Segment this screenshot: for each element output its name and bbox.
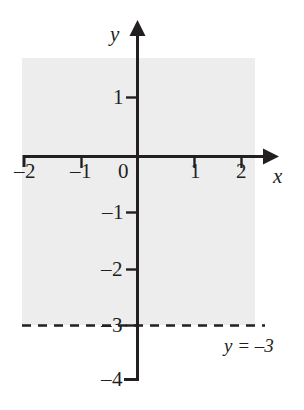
y-tick-label-1: 1 [113, 87, 124, 108]
x-tick-label--2: –2 [14, 161, 36, 182]
line-equation-label: y = –3 [224, 336, 274, 355]
y-tick-label--2: –2 [101, 259, 123, 280]
graph-figure: y x 0 –2 –1 1 2 1 –1 –2 –3 –4 y = –3 [0, 0, 304, 410]
y-tick-label--4: –4 [101, 369, 123, 390]
x-axis-arrow-icon [263, 149, 279, 165]
x-tick-label-1: 1 [190, 161, 201, 182]
y-tick-label--3: –3 [101, 315, 123, 336]
y-tick-label--1: –1 [102, 202, 124, 223]
x-axis-label: x [273, 166, 282, 187]
y-axis-label: y [110, 24, 119, 45]
x-tick-label--1: –1 [70, 161, 92, 182]
origin-label: 0 [118, 161, 129, 182]
y-axis-arrow-icon [130, 20, 146, 36]
x-tick-label-2: 2 [236, 161, 247, 182]
